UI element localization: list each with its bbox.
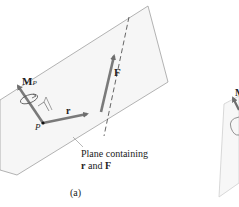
caption-leader	[73, 137, 83, 147]
plane-caption-line2: r and F	[81, 160, 111, 171]
moment-label-subscript: P	[32, 79, 36, 87]
moment-label: MP	[22, 75, 37, 87]
moment-label-b-partial: M	[235, 87, 239, 98]
caption-f: F	[105, 160, 111, 171]
r-label: r	[66, 105, 70, 116]
plane-caption-line1: Plane containing	[81, 148, 148, 159]
plane-b-partial	[219, 96, 239, 197]
f-label: F	[114, 66, 121, 78]
point-p-label: P	[35, 122, 41, 132]
point-p	[41, 121, 44, 124]
moment-label-text: M	[22, 75, 32, 87]
moment-diagram	[0, 0, 239, 207]
panel-a-label: (a)	[70, 187, 81, 198]
caption-and: and	[85, 160, 104, 171]
